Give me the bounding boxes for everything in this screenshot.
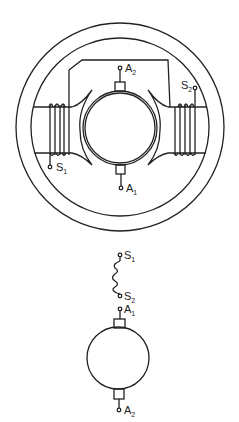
label-a1: A1 [126,182,137,196]
label-schematic-s2: S2 [124,290,135,304]
frame-outer-ring [16,23,224,231]
label-schematic-a1: A1 [124,303,135,317]
right-field-coil [174,90,195,156]
armature-inner [85,93,155,163]
label-a2: A2 [125,62,136,76]
series-motor-diagram: A2 A1 S1 S2 S1 S2 A1 A2 [0,0,239,422]
terminal-a2 [118,66,122,70]
brush-top [115,82,125,91]
terminal-s2 [193,86,197,90]
label-schematic-s1: S1 [124,249,135,263]
terminal-s1 [48,165,52,169]
label-s2: S2 [181,79,192,93]
label-schematic-a2: A2 [124,404,135,418]
left-field-coil [49,70,69,165]
armature [83,91,157,165]
label-s1: S1 [56,161,67,175]
brush-bottom [116,165,125,174]
schematic-field-coil [113,253,122,298]
schematic-armature [87,307,149,412]
terminal-a1 [119,186,123,190]
